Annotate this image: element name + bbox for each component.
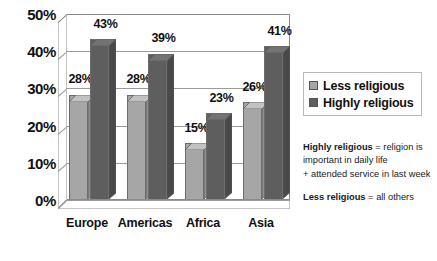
bar-face [127, 95, 146, 199]
y-axis: 50%40%30%20%10%0% [0, 0, 56, 261]
bar-face [90, 39, 109, 199]
annotation-term-less-religious: Less religious [303, 192, 366, 202]
annotation-line-1: Highly religious = religion is [303, 141, 437, 154]
annotation-block-highly-religious: Highly religious = religion is important… [303, 141, 437, 181]
annotation-line-2: important in daily life [303, 154, 437, 167]
annotation-line-4: Less religious = all others [303, 191, 437, 204]
category-label: Africa [174, 216, 232, 230]
bar-top [90, 32, 116, 39]
bar [243, 102, 262, 199]
bar-group: 15%23% [174, 13, 232, 199]
bar [148, 54, 167, 199]
bar-group: 28%43% [58, 13, 116, 199]
annotation-term-highly-religious: Highly religious [303, 142, 373, 152]
chart-legend: Less religiousHighly religious [303, 72, 422, 116]
annotation-line-1-rest: = religion is [373, 142, 423, 152]
category-label: Americas [116, 216, 174, 230]
bar [90, 39, 109, 199]
bar-group: 28%39% [116, 13, 174, 199]
bar-side [167, 54, 174, 199]
bar [206, 113, 225, 199]
category-label: Asia [232, 216, 290, 230]
legend-label: Highly religious [323, 96, 414, 110]
legend-label: Less religious [323, 79, 404, 93]
category-label: Europe [58, 216, 116, 230]
bar [264, 46, 283, 199]
bar [127, 95, 146, 199]
bar-side [109, 39, 116, 199]
plot-area: 28%43%28%39%15%23%26%41% [58, 14, 290, 208]
bar [69, 95, 88, 199]
chart-container: 50%40%30%20%10%0% 28%43%28%39%15%23%26%4… [0, 0, 437, 261]
gridline [66, 200, 290, 201]
chart-annotation: Highly religious = religion is important… [303, 141, 437, 215]
legend-item: Less religious [309, 77, 414, 94]
bar-top [264, 39, 290, 46]
annotation-line-4-rest: = all others [366, 192, 414, 202]
bar-face [185, 143, 204, 199]
y-axis-tick-label: 10% [6, 156, 56, 171]
y-axis-tick-label: 50% [6, 7, 56, 22]
bar-face [69, 95, 88, 199]
bar-side [225, 113, 232, 199]
bar-face [264, 46, 283, 199]
y-axis-tick-label: 0% [6, 193, 56, 208]
y-axis-tick-label: 20% [6, 119, 56, 134]
legend-swatch-icon [309, 81, 318, 90]
bar-face [206, 113, 225, 199]
bar-top [148, 47, 174, 54]
annotation-line-3: + attended service in last week [303, 168, 437, 181]
bar-top [206, 106, 232, 113]
legend-swatch-icon [309, 98, 318, 107]
legend-item: Highly religious [309, 94, 414, 111]
plot-floor [58, 200, 290, 209]
bar-face [148, 54, 167, 199]
bar [185, 143, 204, 199]
bar-group: 26%41% [232, 13, 290, 199]
bar-side [283, 46, 290, 199]
bar-face [243, 102, 262, 199]
annotation-block-less-religious: Less religious = all others [303, 191, 437, 204]
y-axis-tick-label: 30% [6, 81, 56, 96]
y-axis-tick-label: 40% [6, 44, 56, 59]
bar-value-label: 41% [265, 25, 294, 38]
